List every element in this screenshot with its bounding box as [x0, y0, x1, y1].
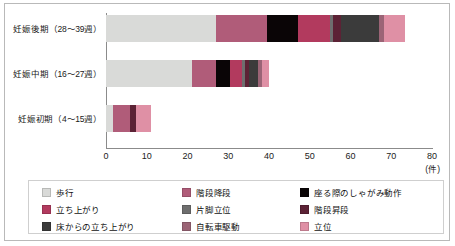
bar-segment[interactable]: [249, 60, 257, 87]
chart-root: 妊娠後期（28〜39週） 妊娠中期（16〜27週） 妊娠初期（4〜15週） 01…: [0, 0, 455, 246]
x-tick-label: 10: [142, 151, 152, 161]
stacked-bar-row[interactable]: [106, 15, 405, 42]
legend-swatch: [42, 188, 51, 197]
legend-item[interactable]: 立ち上がり: [42, 202, 100, 216]
bar-segment[interactable]: [106, 105, 113, 132]
legend-swatch: [182, 188, 191, 197]
legend-item[interactable]: 座る際のしゃがみ動作: [300, 185, 402, 199]
legend-label: 階段昇段: [314, 203, 349, 215]
legend-label: 片脚立位: [196, 203, 231, 215]
legend-item[interactable]: 歩行: [42, 185, 74, 199]
bar-segment[interactable]: [298, 15, 331, 42]
legend-item[interactable]: 階段昇段: [300, 202, 349, 216]
legend-swatch: [42, 205, 51, 214]
x-axis-unit-label: (件): [425, 162, 440, 174]
bar-segment[interactable]: [136, 105, 151, 132]
bar-segment[interactable]: [216, 60, 230, 87]
legend-swatch: [300, 222, 309, 231]
legend-label: 歩行: [56, 186, 74, 198]
legend-label: 立ち上がり: [56, 203, 100, 215]
x-tick-label: 30: [223, 151, 233, 161]
legend-swatch: [182, 205, 191, 214]
x-tick-label: 40: [264, 151, 274, 161]
bar-segment[interactable]: [106, 60, 192, 87]
legend-label: 床からの立ち上がり: [56, 220, 135, 232]
legend: 歩行階段降段座る際のしゃがみ動作立ち上がり片脚立位階段昇段床からの立ち上がり自転…: [12, 180, 444, 236]
x-tick-label: 50: [305, 151, 315, 161]
bar-segment[interactable]: [262, 60, 269, 87]
legend-swatch: [300, 205, 309, 214]
plot-area: [106, 14, 432, 148]
legend-item[interactable]: 立位: [300, 219, 332, 233]
legend-item[interactable]: 階段降段: [182, 185, 231, 199]
legend-item[interactable]: 片脚立位: [182, 202, 231, 216]
category-label-2: 妊娠初期（4〜15週）: [4, 112, 102, 124]
legend-label: 立位: [314, 220, 332, 232]
category-label-0: 妊娠後期（28〜39週）: [4, 22, 102, 34]
x-axis-line: [106, 148, 433, 149]
bar-segment[interactable]: [341, 15, 380, 42]
x-tick-label: 80: [427, 151, 437, 161]
x-tick-label: 20: [182, 151, 192, 161]
bar-segment[interactable]: [113, 105, 130, 132]
bar-segment[interactable]: [384, 15, 405, 42]
legend-item[interactable]: 床からの立ち上がり: [42, 219, 135, 233]
category-axis-labels: 妊娠後期（28〜39週） 妊娠中期（16〜27週） 妊娠初期（4〜15週）: [0, 14, 102, 148]
stacked-bar-row[interactable]: [106, 60, 269, 87]
bar-segment[interactable]: [267, 15, 298, 42]
x-tick-label: 70: [386, 151, 396, 161]
legend-label: 座る際のしゃがみ動作: [314, 186, 402, 198]
x-tick-label: 0: [103, 151, 108, 161]
legend-swatch: [182, 222, 191, 231]
bar-segment[interactable]: [192, 60, 216, 87]
legend-label: 階段降段: [196, 186, 231, 198]
category-label-1: 妊娠中期（16〜27週）: [4, 67, 102, 79]
bar-segment[interactable]: [106, 15, 216, 42]
stacked-bar-row[interactable]: [106, 105, 151, 132]
bar-segment[interactable]: [333, 15, 340, 42]
legend-swatch: [42, 222, 51, 231]
x-tick-label: 60: [345, 151, 355, 161]
bar-segment[interactable]: [216, 15, 267, 42]
legend-label: 自転車駆動: [196, 220, 240, 232]
bar-segment[interactable]: [230, 60, 242, 87]
legend-swatch: [300, 188, 309, 197]
legend-item[interactable]: 自転車駆動: [182, 219, 240, 233]
